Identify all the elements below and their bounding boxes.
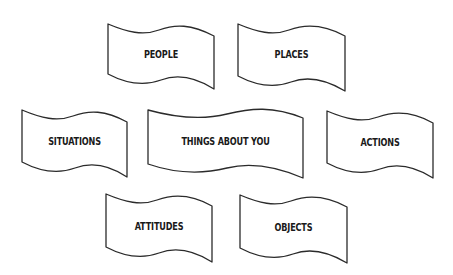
banner-label: PLACES	[247, 48, 336, 61]
banner-things-about-you: THINGS ABOUT YOU	[147, 106, 304, 179]
banner-places: PLACES	[237, 22, 346, 92]
banner-label: OBJECTS	[249, 221, 338, 234]
banner-attitudes: ATTITUDES	[105, 192, 213, 263]
banner-diagram: PEOPLE PLACES SITUATIONS THINGS ABOUT YO…	[0, 0, 453, 275]
banner-label: ACTIONS	[336, 136, 425, 149]
banner-situations: SITUATIONS	[21, 108, 128, 178]
banner-people: PEOPLE	[107, 22, 215, 90]
banner-label: ATTITUDES	[115, 220, 204, 233]
banner-actions: ACTIONS	[326, 109, 434, 179]
banner-label: PEOPLE	[117, 48, 206, 61]
banner-label: THINGS ABOUT YOU	[161, 135, 290, 148]
banner-label: SITUATIONS	[31, 135, 119, 148]
banner-objects: OBJECTS	[239, 193, 348, 264]
